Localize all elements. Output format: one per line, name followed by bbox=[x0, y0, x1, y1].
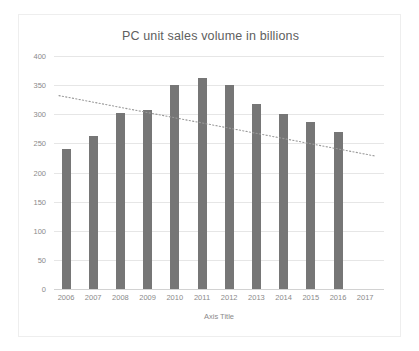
gridline-400 bbox=[54, 56, 384, 57]
gridline-350 bbox=[54, 85, 384, 86]
bar-2011[interactable] bbox=[198, 78, 207, 289]
ytick-label-250: 250 bbox=[18, 140, 46, 148]
trendline-path bbox=[59, 96, 376, 157]
plot-area: 400 350 300 250 200 150 100 50 0 2006 20… bbox=[54, 56, 384, 289]
gridline-300 bbox=[54, 114, 384, 115]
ytick-label-0: 0 bbox=[18, 286, 46, 294]
bar-2010[interactable] bbox=[170, 85, 179, 289]
chart-title: PC unit sales volume in billions bbox=[19, 29, 402, 43]
bar-2006[interactable] bbox=[62, 149, 71, 289]
ytick-label-350: 350 bbox=[18, 82, 46, 90]
ytick-label-400: 400 bbox=[18, 53, 46, 61]
x-axis-title: Axis Title bbox=[54, 312, 384, 321]
xtick-label-2017: 2017 bbox=[348, 294, 382, 302]
x-axis-line bbox=[54, 289, 384, 290]
bar-2015[interactable] bbox=[306, 122, 315, 289]
ytick-label-100: 100 bbox=[18, 228, 46, 236]
chart-container: PC unit sales volume in billions 400 350… bbox=[18, 14, 401, 337]
ytick-label-300: 300 bbox=[18, 111, 46, 119]
bar-2007[interactable] bbox=[89, 136, 98, 289]
ytick-label-150: 150 bbox=[18, 199, 46, 207]
ytick-label-200: 200 bbox=[18, 170, 46, 178]
bar-2008[interactable] bbox=[116, 113, 125, 289]
bar-2013[interactable] bbox=[252, 104, 261, 289]
ytick-label-50: 50 bbox=[18, 257, 46, 265]
bar-2009[interactable] bbox=[143, 110, 152, 289]
bar-2014[interactable] bbox=[279, 114, 288, 289]
bar-2016[interactable] bbox=[334, 132, 343, 289]
bar-2012[interactable] bbox=[225, 85, 234, 289]
